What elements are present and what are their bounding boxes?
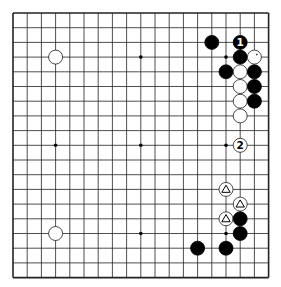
dot-mark-icon <box>256 54 258 56</box>
star-point <box>139 144 143 148</box>
white-stone <box>233 197 247 211</box>
white-stone: 2 <box>233 138 247 152</box>
white-stone <box>219 212 233 226</box>
white-stone <box>49 50 63 64</box>
star-point <box>224 232 228 236</box>
black-stone <box>233 50 247 64</box>
star-point <box>139 232 143 236</box>
black-stone <box>247 94 261 108</box>
white-stone <box>233 65 247 79</box>
black-stone: 1 <box>233 35 247 49</box>
star-point <box>54 144 58 148</box>
go-board: 12 <box>0 0 281 287</box>
white-stone <box>49 227 63 241</box>
black-stone <box>219 241 233 255</box>
star-point <box>224 144 228 148</box>
white-stone <box>233 109 247 123</box>
black-stone <box>247 65 261 79</box>
white-stone <box>233 80 247 94</box>
star-point <box>139 55 143 59</box>
move-number-label: 2 <box>237 139 244 151</box>
black-stone <box>233 227 247 241</box>
black-stone <box>205 35 219 49</box>
move-number-label: 1 <box>237 36 244 48</box>
black-stone <box>247 80 261 94</box>
black-stone <box>233 212 247 226</box>
white-stone <box>247 50 261 64</box>
white-stone <box>233 94 247 108</box>
star-point <box>224 55 228 59</box>
white-stone <box>219 182 233 196</box>
black-stone <box>191 241 205 255</box>
black-stone <box>219 65 233 79</box>
